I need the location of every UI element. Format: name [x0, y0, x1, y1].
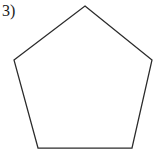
geometry-figure: 3) [0, 0, 156, 157]
pentagon-shape-svg [0, 0, 156, 157]
pentagon-outline [14, 6, 152, 148]
